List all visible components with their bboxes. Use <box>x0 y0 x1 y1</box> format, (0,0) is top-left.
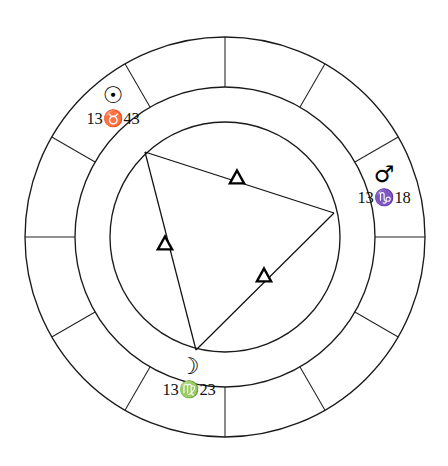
house-cusp-spoke-11 <box>52 137 95 162</box>
trine-marker-mars-moon-trine <box>257 269 271 282</box>
planet-mars[interactable]: ♂ 13♑18 <box>334 163 434 207</box>
sun-glyph: ☉ <box>63 84 163 107</box>
mars-degree-label: 13♑18 <box>334 190 434 207</box>
house-cusp-spoke-6 <box>300 367 325 410</box>
trine-marker-sun-moon-trine <box>158 237 172 250</box>
house-cusp-spoke-9 <box>52 312 95 337</box>
astrology-chart-wheel: ☉ 13♉43 ♂ 13♑18 ☽ 13♍23 <box>0 0 448 466</box>
house-cusp-spoke-5 <box>355 312 398 337</box>
planet-moon[interactable]: ☽ 13♍23 <box>139 355 239 399</box>
moon-glyph: ☽ <box>139 355 239 378</box>
sun-degree-label: 13♉43 <box>63 111 163 128</box>
mars-glyph: ♂ <box>334 163 434 186</box>
house-cusp-spoke-2 <box>300 64 325 107</box>
planet-sun[interactable]: ☉ 13♉43 <box>63 84 163 128</box>
inner-ring-circle <box>110 122 340 352</box>
house-cusp-spoke-3 <box>355 137 398 162</box>
moon-degree-label: 13♍23 <box>139 382 239 399</box>
trine-marker-sun-mars-trine <box>230 171 244 184</box>
aspect-line-sun-moon-trine <box>145 152 196 350</box>
middle-ring-circle <box>75 87 375 387</box>
